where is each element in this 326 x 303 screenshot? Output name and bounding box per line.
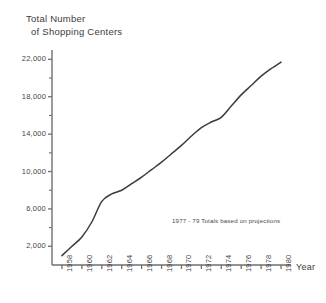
shopping-centers-line-chart: Total Number of Shopping Centers 2,0006,…	[0, 0, 326, 303]
x-axis-tick-labels: 1958196019621964196619681970197219741976…	[0, 0, 326, 303]
x-tick-label: 1964	[125, 255, 134, 273]
x-tick-label: 1960	[85, 255, 94, 273]
x-tick-label: 1980	[284, 255, 293, 273]
x-tick-label: 1958	[65, 255, 74, 273]
x-tick-label: 1974	[224, 255, 233, 273]
x-tick-label: 1966	[145, 255, 154, 273]
x-tick-label: 1976	[244, 255, 253, 273]
x-tick-label: 1972	[204, 255, 213, 273]
x-tick-label: 1962	[105, 255, 114, 273]
x-axis-title: Year	[296, 262, 315, 272]
chart-annotation: 1977 - 79 Totals based on projections	[172, 217, 280, 224]
x-tick-label: 1970	[184, 255, 193, 273]
x-tick-label: 1968	[165, 255, 174, 273]
x-tick-label: 1978	[264, 255, 273, 273]
